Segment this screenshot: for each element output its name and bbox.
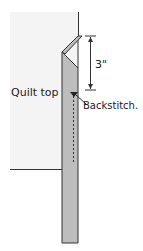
binding-diagram: 3" Backstitch. Quilt top — [0, 0, 143, 251]
backstitch-label: Backstitch. — [83, 100, 138, 111]
dimension-arrow-up-icon — [88, 37, 93, 42]
measurement-label: 3" — [95, 58, 107, 71]
dimension-arrow-down-icon — [88, 84, 93, 89]
quilt-top-label: Quilt top — [11, 86, 59, 99]
binding-strip — [62, 52, 78, 243]
